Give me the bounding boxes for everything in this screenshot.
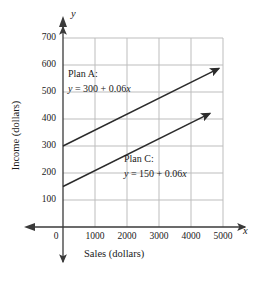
annotation-plan-c-label: Plan C:: [124, 152, 187, 167]
y-axis: [59, 16, 67, 262]
y-axis-variable-label: y: [71, 8, 76, 19]
x-axis: [24, 223, 245, 231]
graph-figure: y x Sales (dollars) Income (dollars) 700…: [0, 0, 259, 281]
y-tick-label: 700: [30, 32, 56, 42]
y-tick-label: 300: [30, 140, 56, 150]
annotation-plan-c: Plan C: y = 150 + 0.06x: [124, 152, 187, 181]
y-tick-label: 200: [30, 167, 56, 177]
equation-equals: =: [128, 168, 139, 179]
x-tick-label: 1000: [78, 231, 112, 241]
x-tick-label: 4000: [174, 231, 208, 241]
equation-slope: 0.06: [165, 168, 183, 179]
x-tick-label: 0: [39, 231, 73, 241]
annotation-plan-a-equation: y = 300 + 0.06x: [68, 82, 131, 97]
y-tick-label: 600: [30, 59, 56, 69]
y-tick-label: 500: [30, 86, 56, 96]
annotation-plan-a-label: Plan A:: [68, 67, 131, 82]
x-tick-label: 5000: [206, 231, 240, 241]
equation-intercept: 300: [83, 83, 98, 94]
y-axis-title: Income (dollars): [10, 81, 21, 191]
equation-equals: =: [72, 83, 83, 94]
annotation-plan-a: Plan A: y = 300 + 0.06x: [68, 67, 131, 96]
x-tick-label: 3000: [142, 231, 176, 241]
equation-variable: x: [182, 168, 186, 179]
equation-plus: +: [154, 168, 165, 179]
x-tick-label: 2000: [110, 231, 144, 241]
equation-plus: +: [98, 83, 109, 94]
equation-slope: 0.06: [109, 83, 127, 94]
y-tick-label: 100: [30, 194, 56, 204]
equation-variable: x: [126, 83, 130, 94]
y-tick-label: 400: [30, 113, 56, 123]
x-axis-variable-label: x: [243, 225, 248, 236]
annotation-plan-c-equation: y = 150 + 0.06x: [124, 167, 187, 182]
equation-intercept: 150: [139, 168, 154, 179]
x-axis-title: Sales (dollars): [84, 248, 144, 259]
